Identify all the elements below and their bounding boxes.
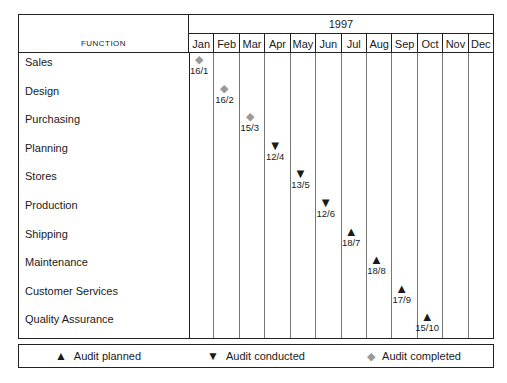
legend-label: Audit conducted [226, 350, 305, 362]
table-body: Sales◆16/1Design◆16/2Purchasing◆15/3Plan… [19, 53, 493, 338]
legend-label: Audit completed [382, 350, 461, 362]
audit-date-label: 18/8 [359, 265, 393, 276]
legend-item-audit-planned: ▲Audit planned [19, 350, 177, 362]
diamond-icon: ◆ [367, 351, 375, 362]
audit-date-label: 17/9 [385, 294, 419, 305]
audit-marker-sales: ◆16/1 [182, 55, 216, 76]
audit-marker-stores: ▼13/5 [283, 169, 317, 190]
tri-up-icon: ▲ [334, 227, 368, 237]
table-row: Purchasing◆15/3 [19, 110, 493, 139]
tri-down-icon: ▼ [309, 198, 343, 208]
table-row: Customer Services▲17/9 [19, 282, 493, 311]
legend-item-audit-completed: ◆Audit completed [335, 350, 493, 362]
audit-date-label: 12/6 [309, 208, 343, 219]
table-row: Quality Assurance▲15/10 [19, 310, 493, 339]
month-header-nov: Nov [443, 34, 468, 53]
month-header-jan: Jan [189, 34, 214, 53]
row-label-quality-assurance: Quality Assurance [25, 313, 114, 325]
audit-schedule-table: FUNCTION 1997 JanFebMarAprMayJunJulAugSe… [18, 14, 494, 339]
tri-up-icon: ▲ [410, 312, 444, 322]
month-header-jun: Jun [316, 34, 341, 53]
tri-down-icon: ▼ [283, 169, 317, 179]
row-label-sales: Sales [25, 56, 53, 68]
row-label-production: Production [25, 199, 78, 211]
table-row: Design◆16/2 [19, 82, 493, 111]
tri-up-icon: ▲ [359, 255, 393, 265]
month-header-dec: Dec [469, 34, 493, 53]
audit-date-label: 13/5 [283, 179, 317, 190]
month-header-sep: Sep [392, 34, 417, 53]
month-header-feb: Feb [214, 34, 239, 53]
audit-marker-planning: ▼12/4 [258, 141, 292, 162]
audit-date-label: 15/3 [233, 122, 267, 133]
tri-down-icon: ▼ [207, 350, 219, 362]
audit-marker-design: ◆16/2 [207, 84, 241, 105]
tri-down-icon: ▼ [258, 141, 292, 151]
row-label-design: Design [25, 85, 59, 97]
audit-marker-maintenance: ▲18/8 [359, 255, 393, 276]
row-label-customer-services: Customer Services [25, 285, 118, 297]
audit-marker-production: ▼12/6 [309, 198, 343, 219]
row-label-stores: Stores [25, 170, 57, 182]
month-header-oct: Oct [418, 34, 443, 53]
legend-label: Audit planned [74, 350, 141, 362]
audit-date-label: 12/4 [258, 151, 292, 162]
month-header-mar: Mar [240, 34, 265, 53]
audit-date-label: 15/10 [410, 322, 444, 333]
table-row: Maintenance▲18/8 [19, 253, 493, 282]
table-row: Planning▼12/4 [19, 139, 493, 168]
year-header: 1997 [189, 15, 493, 34]
tri-up-icon: ▲ [55, 350, 67, 362]
table-row: Sales◆16/1 [19, 53, 493, 82]
diamond-icon: ◆ [233, 112, 267, 122]
table-row: Shipping▲18/7 [19, 225, 493, 254]
audit-date-label: 18/7 [334, 237, 368, 248]
diamond-icon: ◆ [182, 55, 216, 65]
row-label-planning: Planning [25, 142, 68, 154]
row-label-shipping: Shipping [25, 228, 68, 240]
audit-date-label: 16/1 [182, 65, 216, 76]
table-row: Production▼12/6 [19, 196, 493, 225]
month-header-jul: Jul [342, 34, 367, 53]
audit-marker-customer-services: ▲17/9 [385, 284, 419, 305]
schedule-rows: Sales◆16/1Design◆16/2Purchasing◆15/3Plan… [19, 53, 493, 338]
month-header-aug: Aug [367, 34, 392, 53]
audit-marker-quality-assurance: ▲15/10 [410, 312, 444, 333]
row-label-maintenance: Maintenance [25, 256, 88, 268]
table-row: Stores▼13/5 [19, 167, 493, 196]
audit-marker-shipping: ▲18/7 [334, 227, 368, 248]
audit-date-label: 16/2 [207, 94, 241, 105]
month-header-row: JanFebMarAprMayJunJulAugSepOctNovDec [189, 34, 493, 53]
audit-marker-purchasing: ◆15/3 [233, 112, 267, 133]
tri-up-icon: ▲ [385, 284, 419, 294]
legend: ▲Audit planned▼Audit conducted◆Audit com… [18, 344, 494, 368]
legend-item-audit-conducted: ▼Audit conducted [177, 350, 335, 362]
function-column-header: FUNCTION [19, 15, 189, 52]
month-header-apr: Apr [265, 34, 290, 53]
diamond-icon: ◆ [207, 84, 241, 94]
month-header-may: May [291, 34, 316, 53]
row-label-purchasing: Purchasing [25, 113, 80, 125]
table-header: FUNCTION 1997 JanFebMarAprMayJunJulAugSe… [19, 15, 493, 53]
function-header-label: FUNCTION [81, 39, 126, 52]
